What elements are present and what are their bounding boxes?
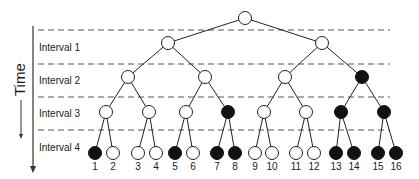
open-leaf-6 — [187, 147, 200, 160]
open-leaf-11 — [290, 147, 303, 160]
leaf-label-16: 16 — [390, 161, 402, 172]
filled-node-b2 — [356, 71, 369, 84]
interval-label-4: Interval 4 — [39, 142, 81, 153]
open-leaf-4 — [150, 147, 163, 160]
open-node-b11 — [258, 106, 271, 119]
filled-leaf-15 — [372, 147, 385, 160]
time-label: Time — [11, 63, 28, 96]
interval-label-2: Interval 2 — [39, 75, 81, 86]
time-axis: Time — [11, 26, 36, 173]
time-arrow-down-icon — [19, 134, 23, 139]
leaf-label-6: 6 — [190, 161, 196, 172]
filled-leaf-8 — [229, 147, 242, 160]
filled-node-a22 — [222, 106, 235, 119]
filled-leaf-16 — [390, 147, 403, 160]
leaf-label-4: 4 — [153, 161, 159, 172]
filled-leaf-14 — [348, 147, 361, 160]
open-leaf-12 — [308, 147, 321, 160]
leaf-label-7: 7 — [214, 161, 220, 172]
open-node-a12 — [143, 106, 156, 119]
open-leaf-2 — [107, 147, 120, 160]
open-leaf-9 — [249, 147, 262, 160]
filled-node-b22 — [378, 106, 391, 119]
leaf-label-8: 8 — [232, 161, 238, 172]
leaf-label-13: 13 — [330, 161, 342, 172]
open-node-a2 — [199, 71, 212, 84]
open-node-b — [316, 37, 329, 50]
tree-leaves: 12345678910111213141516 — [89, 147, 403, 173]
open-node-r — [239, 12, 252, 25]
diagram-svg: Time Interval 1 Interval 2 Interval 3 In… — [0, 0, 419, 179]
filled-leaf-1 — [89, 147, 102, 160]
interval-label-1: Interval 1 — [39, 42, 81, 53]
time-axis-arrowhead-icon — [30, 166, 36, 173]
leaf-label-12: 12 — [308, 161, 320, 172]
leaf-label-11: 11 — [291, 161, 302, 172]
leaf-label-10: 10 — [266, 161, 278, 172]
filled-leaf-13 — [330, 147, 343, 160]
leaf-label-3: 3 — [135, 161, 141, 172]
open-leaf-10 — [266, 147, 279, 160]
open-node-a — [162, 37, 175, 50]
filled-leaf-7 — [211, 147, 224, 160]
open-node-a21 — [180, 106, 193, 119]
open-node-a1 — [122, 71, 135, 84]
open-leaf-3 — [132, 147, 145, 160]
interval-label-3: Interval 3 — [39, 108, 81, 119]
time-interval-tree-diagram: Time Interval 1 Interval 2 Interval 3 In… — [0, 0, 419, 179]
leaf-label-15: 15 — [372, 161, 384, 172]
leaf-label-14: 14 — [348, 161, 360, 172]
tree-edge — [168, 43, 205, 77]
open-node-b12 — [300, 106, 313, 119]
tree-edge — [285, 43, 322, 77]
leaf-label-2: 2 — [110, 161, 116, 172]
open-node-a11 — [100, 106, 113, 119]
tree-edge — [322, 43, 362, 77]
leaf-label-5: 5 — [172, 161, 178, 172]
leaf-label-1: 1 — [92, 161, 98, 172]
filled-node-b21 — [335, 106, 348, 119]
tree-edge — [128, 43, 168, 77]
tree-edges — [95, 18, 396, 153]
filled-leaf-5 — [169, 147, 182, 160]
open-node-b1 — [279, 71, 292, 84]
leaf-label-9: 9 — [252, 161, 258, 172]
